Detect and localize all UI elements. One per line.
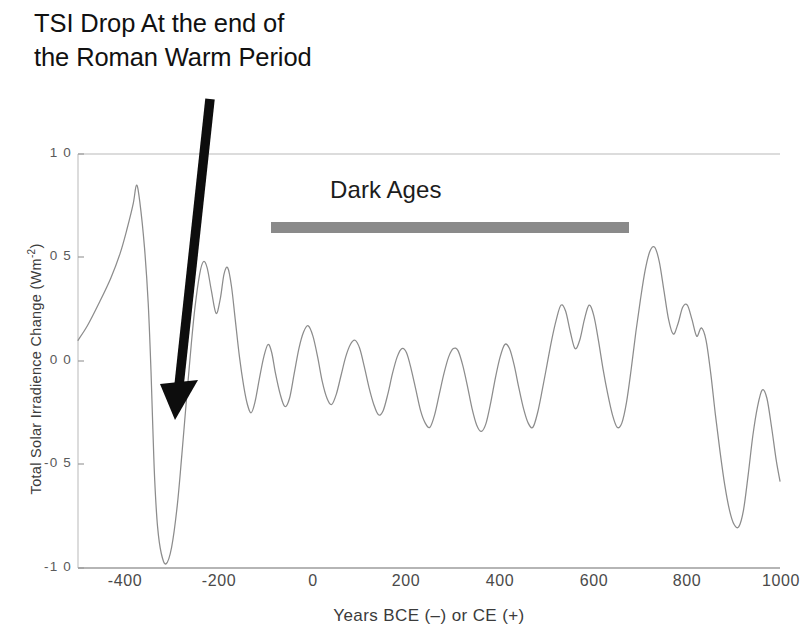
arrow-shaft: [178, 99, 210, 395]
arrow-head: [160, 380, 198, 420]
tsi-drop-arrow: [160, 99, 210, 420]
